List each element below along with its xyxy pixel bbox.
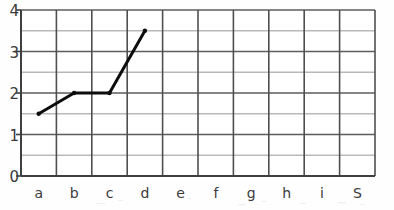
plot-area <box>0 0 394 210</box>
data-point-c <box>107 91 111 95</box>
x-axis-tick-label: f <box>206 186 226 200</box>
x-axis-tick-label: i <box>312 186 332 200</box>
x-axis-tick-label: e <box>170 186 190 200</box>
chart-figure: 4 3 2 1 0 <box>0 0 394 210</box>
x-axis-tick-label: b <box>64 186 84 200</box>
x-axis-tick-label: S <box>347 186 367 200</box>
data-point-d <box>143 29 147 33</box>
x-axis-tick-label: a <box>29 186 49 200</box>
x-axis-tick-label: g <box>241 186 261 200</box>
x-axis-tick-label: d <box>135 186 155 200</box>
x-axis-tick-label: h <box>277 186 297 200</box>
x-axis-tick-label: c <box>100 186 120 200</box>
data-point-b <box>72 91 76 95</box>
data-point-a <box>37 112 41 116</box>
